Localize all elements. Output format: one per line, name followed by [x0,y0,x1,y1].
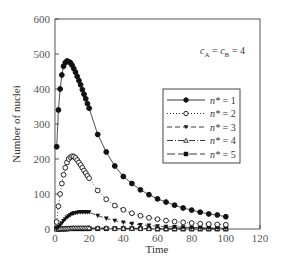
y-tick-label: 400 [34,83,51,95]
legend-marker [184,98,188,102]
data-point [206,212,211,217]
data-point [147,215,152,220]
y-tick-label: 500 [34,48,51,60]
data-point [189,208,194,213]
data-point [172,203,177,208]
y-axis-label: Number of nuclei [10,85,22,163]
y-tick-label: 200 [34,153,51,165]
y-tick-label: 600 [34,13,51,25]
legend-label: n* = 5 [210,149,236,160]
x-tick-label: 0 [52,232,58,244]
data-point [104,197,109,202]
data-point [215,213,220,218]
data-point [112,164,117,169]
x-tick-label: 40 [118,232,130,244]
data-point [138,213,143,218]
x-tick-label: 120 [252,232,269,244]
data-point [58,87,63,92]
data-point [215,222,220,227]
data-point [112,203,117,208]
data-point [198,210,203,215]
data-point [121,207,126,212]
data-point [61,172,66,177]
data-point [56,204,61,209]
legend-marker [184,111,188,115]
legend: n* = 1n* = 2n* = 3n* = 4n* = 5 [163,89,240,163]
data-point [104,150,109,155]
data-point [138,187,143,192]
legend-label: n* = 3 [210,122,236,133]
data-point [95,188,100,193]
data-point [129,211,134,216]
legend-label: n* = 1 [210,95,236,106]
data-point [172,219,177,224]
x-axis-label: Time [146,243,169,255]
data-point [223,214,228,219]
data-point [155,217,160,222]
data-point [59,181,64,186]
data-point [189,221,194,226]
data-point [181,220,186,225]
y-tick-label: 0 [45,223,51,235]
data-point [223,222,228,227]
legend-label: n* = 4 [210,135,236,146]
data-point [164,218,169,223]
chart: 0100200300400500600 020406080100120 Time… [0,0,281,266]
data-point [164,200,169,205]
data-point [78,82,83,87]
data-point [56,108,61,113]
y-tick-label: 100 [34,188,51,200]
y-tick-label: 300 [34,118,51,130]
data-point [147,192,152,197]
data-point [58,192,63,197]
data-point [54,220,59,225]
annotation: cA = cB = 4 [200,45,245,59]
data-point [198,221,203,226]
legend-label: n* = 2 [210,108,236,119]
legend-marker [184,152,188,156]
data-point [206,222,211,227]
data-point [95,132,100,137]
data-point [87,106,92,111]
data-point [83,96,88,101]
data-point [181,206,186,211]
data-point [87,176,92,181]
x-tick-label: 100 [218,232,235,244]
data-point [155,197,160,202]
x-tick-label: 80 [186,232,198,244]
data-point [59,73,64,78]
data-point [54,144,59,149]
x-tick-label: 20 [84,232,96,244]
data-point [121,174,126,179]
data-point [63,165,68,170]
data-point [129,181,134,186]
